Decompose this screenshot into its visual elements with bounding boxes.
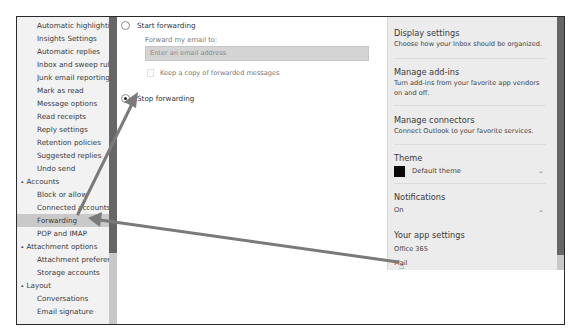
sidebar-item-insights-settings[interactable]: Insights Settings [37,32,109,45]
sidebar-scrollbar-thumb[interactable] [109,17,117,253]
theme-swatch[interactable] [394,166,405,177]
sidebar-item-attachment-preferences[interactable]: Attachment preferences [37,253,109,266]
quick-settings-panel: Display settings Choose how your Inbox s… [387,17,557,270]
divider [394,183,546,184]
manage-addins-link[interactable]: Manage add-ins [394,67,459,77]
notifications-chevron-down-icon[interactable]: ⌄ [538,206,544,214]
sidebar-item-automatic-highlighting[interactable]: Automatic highlighting [37,19,109,32]
stop-forwarding-label[interactable]: Stop forwarding [137,94,194,103]
sidebar-item-retention-policies[interactable]: Retention policies [37,136,109,149]
sidebar-item-label: Attachment preferences [37,255,109,264]
manage-connectors-link[interactable]: Manage connectors [394,115,474,125]
sidebar-item-label: Insights Settings [37,34,97,43]
email-placeholder: Enter an email address [150,49,226,57]
sidebar-item-conversations[interactable]: Conversations [37,292,109,305]
sidebar-item-label: Storage accounts [37,268,100,277]
sidebar-item-message-options[interactable]: Message options [37,97,109,110]
sidebar-group-attachment-options[interactable]: ▴Attachment options [21,240,109,253]
sidebar-item-label: Automatic replies [37,47,100,56]
sidebar-item-pop-and-imap[interactable]: POP and IMAP [37,227,109,240]
right-panel-scrollbar[interactable] [557,17,565,270]
hand-cursor-icon: ☝ [399,261,404,271]
sidebar-item-label: Junk email reporting [37,73,109,82]
sidebar-item-label: Accounts [27,177,60,186]
sidebar-item-read-receipts[interactable]: Read receipts [37,110,109,123]
divider [394,58,546,59]
sidebar-item-label: Email signature [37,307,93,316]
collapse-triangle-icon[interactable]: ▴ [21,279,24,292]
stop-forwarding-radio[interactable] [121,94,130,103]
sidebar-item-label: Block or allow [37,190,87,199]
keep-copy-checkbox[interactable] [147,69,154,77]
sidebar-item-storage-accounts[interactable]: Storage accounts [37,266,109,279]
sidebar-item-inbox-and-sweep-rules[interactable]: Inbox and sweep rules [37,58,109,71]
collapse-triangle-icon[interactable]: ▴ [21,240,24,253]
theme-value[interactable]: Default theme [412,167,461,175]
manage-connectors-desc: Connect Outlook to your favorite service… [394,127,544,137]
sidebar-item-reply-settings[interactable]: Reply settings [37,123,109,136]
right-panel-scrollbar-thumb[interactable] [557,17,565,255]
outlook-settings-window: Automatic highlightingInsights SettingsA… [16,16,565,325]
sidebar-item-label: POP and IMAP [37,229,87,238]
start-forwarding-radio[interactable] [121,21,130,30]
sidebar-group-accounts[interactable]: ▴Accounts [21,175,109,188]
sidebar-item-label: Suggested replies [37,151,101,160]
notifications-title: Notifications [394,192,445,202]
sidebar-item-suggested-replies[interactable]: Suggested replies [37,149,109,162]
sidebar-item-label: Retention policies [37,138,101,147]
sidebar-item-label: Attachment options [27,242,98,251]
divider [394,144,546,145]
sidebar-item-label: Reply settings [37,125,88,134]
display-settings-desc: Choose how your Inbox should be organize… [394,40,544,50]
manage-addins-desc: Turn add-ins from your favorite app vend… [394,79,544,98]
sidebar-item-label: Read receipts [37,112,86,121]
sidebar-item-label: Conversations [37,294,88,303]
sidebar-item-undo-send[interactable]: Undo send [37,162,109,175]
sidebar-item-mark-as-read[interactable]: Mark as read [37,84,109,97]
office365-link[interactable]: Office 365 [394,245,428,253]
sidebar-item-label: Connected accounts [37,203,109,212]
sidebar-item-label: Layout [27,281,51,290]
sidebar-scrollbar[interactable] [109,17,117,324]
sidebar-item-label: Inbox and sweep rules [37,60,109,69]
sidebar-item-label: Undo send [37,164,75,173]
collapse-triangle-icon[interactable]: ▴ [21,175,24,188]
sidebar-item-automatic-replies[interactable]: Automatic replies [37,45,109,58]
theme-chevron-down-icon[interactable]: ⌄ [538,167,544,175]
start-forwarding-label[interactable]: Start forwarding [137,21,196,30]
forwarding-panel: Start forwarding Forward my email to: En… [117,17,387,324]
keep-copy-label: Keep a copy of forwarded messages [160,69,280,77]
settings-sidebar: Automatic highlightingInsights SettingsA… [17,17,109,324]
sidebar-item-label: Message options [37,99,97,108]
sidebar-item-label: Mark as read [37,86,84,95]
sidebar-item-junk-email-reporting[interactable]: Junk email reporting [37,71,109,84]
display-settings-link[interactable]: Display settings [394,28,459,38]
theme-title: Theme [394,153,422,163]
sidebar-item-block-or-allow[interactable]: Block or allow [37,188,109,201]
sidebar-item-label: Forwarding [37,216,77,225]
divider [394,105,546,106]
app-settings-title: Your app settings [394,230,465,240]
sidebar-item-label: Automatic highlighting [37,21,109,30]
sidebar-item-email-signature[interactable]: Email signature [37,305,109,318]
sidebar-item-connected-accounts[interactable]: Connected accounts [37,201,109,214]
notifications-value[interactable]: On [394,206,404,214]
sidebar-item-forwarding[interactable]: Forwarding [17,214,109,227]
forward-email-input[interactable]: Enter an email address [145,46,369,61]
forward-to-label: Forward my email to: [145,36,217,44]
sidebar-group-layout[interactable]: ▴Layout [21,279,109,292]
